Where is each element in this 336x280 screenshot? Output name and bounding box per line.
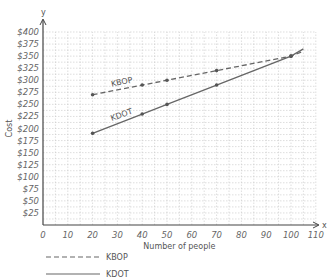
x-tick-label: 40: [137, 230, 148, 240]
x-tick-label: 20: [87, 230, 98, 240]
y-tick-label: $125: [17, 160, 39, 170]
y-tick-label: $100: [17, 172, 39, 182]
y-tick-label: $350: [17, 51, 39, 61]
y-tick-label: $75: [23, 184, 39, 194]
x-axis-label: Number of people: [143, 242, 215, 251]
legend-label: KDOT: [106, 270, 129, 279]
x-tick-label: 70: [211, 230, 222, 240]
x-tick-label: 10: [62, 230, 73, 240]
y-tick-label: $25: [23, 208, 39, 218]
x-tick-label: 60: [186, 230, 197, 240]
y-tick-label: $175: [17, 136, 39, 146]
x-tick-label: 90: [261, 230, 272, 240]
x-tick-label: 110: [308, 230, 324, 240]
y-tick-label: $300: [17, 75, 39, 85]
x-tick-label: 50: [162, 230, 173, 240]
data-point: [215, 83, 219, 87]
y-tick-label: $375: [17, 39, 39, 49]
data-point: [140, 112, 144, 116]
y-tick-label: $325: [17, 63, 39, 73]
series-line-kbop: [93, 51, 304, 94]
data-point: [165, 78, 169, 82]
data-point: [215, 69, 219, 73]
series-line-kdot: [93, 49, 304, 133]
svg-text:x: x: [322, 221, 327, 230]
data-point: [91, 132, 95, 136]
line-chart: xy0102030405060708090100110$25$50$75$100…: [0, 0, 336, 280]
y-tick-label: $50: [23, 196, 39, 206]
data-point: [140, 83, 144, 87]
x-tick-label: 100: [283, 230, 299, 240]
y-tick-label: $400: [17, 27, 39, 37]
y-tick-label: $225: [17, 111, 39, 121]
y-tick-label: $275: [17, 87, 39, 97]
data-point: [289, 54, 293, 58]
svg-text:y: y: [41, 8, 46, 17]
x-tick-label: 30: [112, 230, 123, 240]
legend-label: KBOP: [106, 253, 128, 262]
x-tick-label: 0: [40, 230, 45, 240]
y-tick-label: $150: [17, 148, 39, 158]
series-annotation: KDOT: [109, 107, 133, 123]
y-tick-label: $250: [17, 99, 39, 109]
y-tick-label: $200: [17, 124, 39, 134]
data-point: [165, 103, 169, 107]
x-tick-label: 80: [236, 230, 247, 240]
y-axis-label: Cost: [5, 120, 14, 138]
legend: KBOPKDOT: [46, 253, 129, 279]
grid: [43, 32, 316, 225]
data-point: [91, 93, 95, 97]
